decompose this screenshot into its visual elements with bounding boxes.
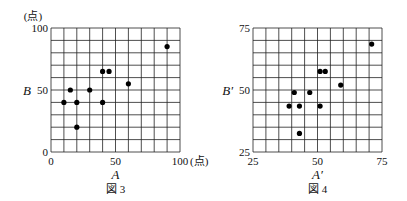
data-point <box>74 125 79 130</box>
y-tick-label: 50 <box>37 84 49 96</box>
y-tick-label: 25 <box>239 146 251 158</box>
figure-caption: 図 4 <box>308 183 328 195</box>
data-point <box>297 131 302 136</box>
data-point <box>297 104 302 109</box>
data-point <box>369 42 374 47</box>
data-point <box>307 90 312 95</box>
data-point <box>323 69 328 74</box>
data-point <box>126 81 131 86</box>
y-unit-label: (点) <box>24 10 43 23</box>
data-point <box>68 87 73 92</box>
data-point <box>106 69 111 74</box>
y-tick-label: 100 <box>32 22 49 34</box>
x-tick-label: 50 <box>312 155 324 167</box>
x-tick-label: 100 <box>172 155 189 167</box>
data-point <box>87 87 92 92</box>
figure-canvas: 050100050100(点)(点)AB図 3 255075255075A′B′… <box>0 0 407 201</box>
data-point <box>338 82 343 87</box>
data-point <box>287 104 292 109</box>
data-point <box>74 100 79 105</box>
data-point <box>317 69 322 74</box>
data-point <box>165 44 170 49</box>
data-point <box>100 69 105 74</box>
data-point <box>317 104 322 109</box>
y-tick-label: 75 <box>239 22 251 34</box>
scatter-chart-figure-3: 050100050100(点)(点)AB図 3 <box>23 10 209 195</box>
y-axis-label: B <box>23 83 31 98</box>
y-tick-label: 0 <box>43 146 49 158</box>
x-axis-label: A <box>111 167 120 182</box>
y-axis-label: B′ <box>222 83 233 98</box>
x-tick-label: 75 <box>377 155 389 167</box>
figure-caption: 図 3 <box>106 183 126 195</box>
x-tick-label: 0 <box>48 155 54 167</box>
data-point <box>292 90 297 95</box>
x-axis-label: A′ <box>311 167 323 182</box>
x-unit-label: (点) <box>190 155 209 168</box>
scatter-chart-figure-4: 255075255075A′B′図 4 <box>222 22 388 195</box>
y-tick-label: 50 <box>239 84 251 96</box>
x-tick-label: 50 <box>110 155 122 167</box>
data-point <box>61 100 66 105</box>
data-point <box>100 100 105 105</box>
grid <box>253 28 382 152</box>
